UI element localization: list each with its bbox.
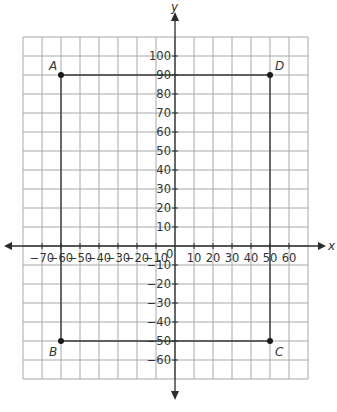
point-label-c: C xyxy=(275,345,284,359)
y-tick-label: 50 xyxy=(156,144,171,158)
y-tick-label: −20 xyxy=(147,277,171,291)
y-tick-label: 90 xyxy=(156,68,171,82)
y-axis-name: y xyxy=(170,0,179,14)
x-tick-label: 10 xyxy=(187,251,202,265)
y-tick-label: 20 xyxy=(156,201,171,215)
y-tick-label: 100 xyxy=(149,49,171,63)
y-tick-label: −50 xyxy=(147,334,171,348)
x-axis-name: x xyxy=(327,239,336,253)
x-tick-label: 60 xyxy=(282,251,297,265)
point-label-b: B xyxy=(49,345,57,359)
y-tick-label: −40 xyxy=(147,315,171,329)
x-axis-right-arrow-icon xyxy=(318,242,326,250)
y-tick-label: −10 xyxy=(147,258,171,272)
point-label-a: A xyxy=(48,59,57,73)
y-tick-label: 80 xyxy=(156,87,171,101)
x-tick-label: 20 xyxy=(206,251,221,265)
point-a xyxy=(58,72,64,78)
y-tick-label: 10 xyxy=(156,220,171,234)
y-tick-label: 60 xyxy=(156,125,171,139)
y-tick-label: −60 xyxy=(147,353,171,367)
y-tick-label: −30 xyxy=(147,296,171,310)
point-d xyxy=(267,72,273,78)
coordinate-plane: x y 0 −70−60−50−40−30−20−101020304050601… xyxy=(0,0,337,412)
point-b xyxy=(58,338,64,344)
x-axis-left-arrow-icon xyxy=(4,242,12,250)
x-tick-label: 30 xyxy=(225,251,240,265)
x-tick-label: 40 xyxy=(244,251,259,265)
y-tick-label: 30 xyxy=(156,182,171,196)
y-tick-label: 40 xyxy=(156,163,171,177)
x-tick-label: 50 xyxy=(263,251,278,265)
y-axis-down-arrow-icon xyxy=(171,391,179,400)
y-tick-label: 70 xyxy=(156,106,171,120)
point-label-d: D xyxy=(275,59,284,73)
point-c xyxy=(267,338,273,344)
